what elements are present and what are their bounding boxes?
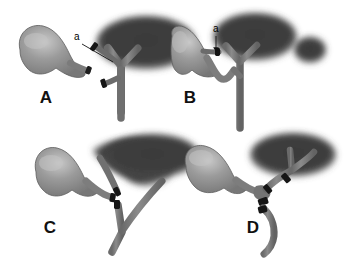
- gallbladder-highlight-a: [24, 33, 48, 49]
- gallbladder-highlight-b: [172, 31, 188, 53]
- liver-lobe-b: [294, 37, 326, 63]
- clip-cbd-c: [114, 200, 120, 209]
- biliary-anatomy-figure: a A a B: [0, 0, 348, 262]
- panel-letter-b: B: [184, 88, 196, 107]
- panel-letter-d: D: [247, 218, 259, 237]
- callout-label-b: a: [213, 23, 219, 34]
- liver-shadow-b: [213, 13, 297, 61]
- cystic-duct-junction-b: [234, 70, 240, 76]
- callout-label-a: a: [74, 31, 80, 42]
- panel-letter-c: C: [44, 218, 56, 237]
- panel-letter-a: A: [40, 88, 52, 107]
- gallbladder-highlight-d: [189, 150, 213, 166]
- gallbladder-highlight-c: [39, 155, 63, 171]
